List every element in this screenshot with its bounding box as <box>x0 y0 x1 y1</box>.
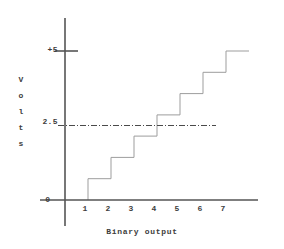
x-tick-label-3: 3 <box>124 205 138 213</box>
x-axis-label: Binary output <box>0 228 284 236</box>
x-tick-label-1: 1 <box>78 205 92 213</box>
y-axis-label-letter-t: t <box>14 120 28 136</box>
chart-figure: V o l t s +5 2.5 0 1 2 3 4 5 6 7 Binary … <box>0 0 284 249</box>
y-tick-label-5v: +5 <box>32 46 58 54</box>
y-axis-label: V o l t s <box>14 72 28 152</box>
x-tick-label-2: 2 <box>101 205 115 213</box>
x-tick-label-7: 7 <box>216 205 230 213</box>
x-tick-label-6: 6 <box>193 205 207 213</box>
y-axis-label-letter-s: s <box>14 136 28 152</box>
y-tick-label-0v: 0 <box>34 196 50 204</box>
y-axis-label-letter-v: V <box>14 72 28 88</box>
x-tick-label-5: 5 <box>170 205 184 213</box>
y-axis-label-letter-o: o <box>14 88 28 104</box>
y-tick-label-2.5v: 2.5 <box>28 118 58 126</box>
y-axis-label-letter-l: l <box>14 104 28 120</box>
x-tick-label-4: 4 <box>147 205 161 213</box>
